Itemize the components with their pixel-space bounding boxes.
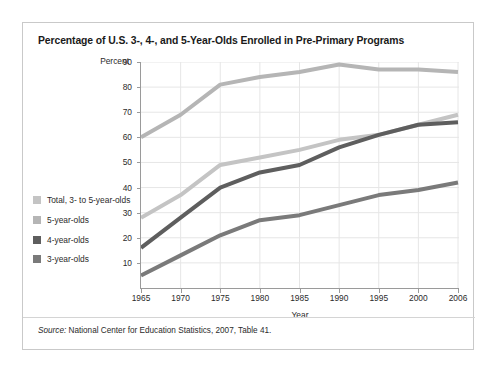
x-axis-tick-mark: [300, 289, 301, 293]
x-axis-tick-mark: [141, 289, 142, 293]
x-axis-tick-mark: [418, 289, 419, 293]
x-axis-tick-mark: [220, 289, 221, 293]
source-divider: [23, 317, 475, 318]
source-text: National Center for Education Statistics…: [66, 326, 271, 335]
y-axis-tick-label: 40: [110, 183, 132, 193]
legend-item[interactable]: 4-year-olds: [33, 235, 139, 246]
legend-label: 4-year-olds: [47, 235, 89, 245]
x-axis-title: Year: [141, 310, 459, 320]
x-axis-tick-label: 2006: [438, 293, 478, 303]
x-axis-tick-mark: [260, 289, 261, 293]
figure-card: Percentage of U.S. 3-, 4-, and 5-Year-Ol…: [22, 22, 474, 350]
y-axis-tick-label: 80: [110, 82, 132, 92]
x-axis-tick-mark: [181, 289, 182, 293]
x-axis-tick-mark: [379, 289, 380, 293]
plot-area: [141, 62, 459, 288]
legend-label: 3-year-olds: [47, 254, 89, 264]
legend-label: 5-year-olds: [47, 215, 89, 225]
x-axis-tick-label: 1970: [161, 293, 201, 303]
x-axis-tick-label: 1980: [240, 293, 280, 303]
legend-label: Total, 3- to 5-year-olds: [47, 195, 130, 205]
x-axis-tick-label: 1975: [200, 293, 240, 303]
y-axis-tick-label: 70: [110, 107, 132, 117]
y-axis-tick-label: 90: [110, 57, 132, 67]
x-axis-tick-label: 1985: [280, 293, 320, 303]
x-axis-tick-mark: [458, 289, 459, 293]
legend-item[interactable]: Total, 3- to 5-year-olds: [33, 195, 139, 206]
legend-swatch: [33, 236, 41, 244]
chart-legend: Total, 3- to 5-year-olds5-year-olds4-yea…: [33, 195, 139, 274]
legend-swatch: [33, 255, 41, 263]
legend-item[interactable]: 5-year-olds: [33, 215, 139, 226]
x-axis-tick-label: 1965: [121, 293, 161, 303]
y-axis-tick-label: 50: [110, 157, 132, 167]
x-axis-tick-label: 1990: [319, 293, 359, 303]
legend-item[interactable]: 3-year-olds: [33, 254, 139, 265]
series-svg: [141, 62, 459, 288]
source-label: Source:: [38, 326, 66, 335]
x-axis-tick-label: 2000: [398, 293, 438, 303]
y-axis-tick-label: 60: [110, 132, 132, 142]
source-note: Source: National Center for Education St…: [38, 326, 271, 335]
x-axis-tick-label: 1995: [359, 293, 399, 303]
chart-plot-region: Percent 102030405060708090 1965197019751…: [23, 23, 475, 351]
legend-swatch: [33, 216, 41, 224]
legend-swatch: [33, 196, 41, 204]
x-axis-line: [140, 288, 459, 289]
x-axis-tick-mark: [339, 289, 340, 293]
